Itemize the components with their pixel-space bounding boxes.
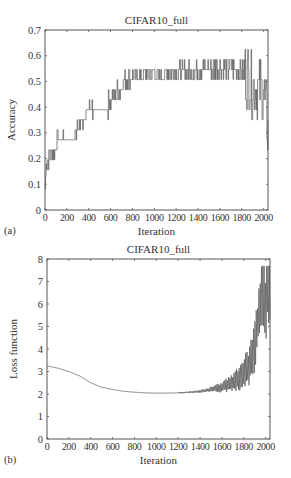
accuracy-line (45, 50, 268, 190)
panel-label: (b) (4, 454, 17, 466)
x-axis-label: Iteration (140, 454, 178, 466)
y-tick-label: 8 (38, 254, 43, 265)
y-tick-label: 0.3 (28, 127, 41, 138)
x-tick-label: 1800 (235, 441, 254, 452)
x-tick-label: 1600 (213, 441, 232, 452)
y-tick-label: 0.1 (28, 179, 41, 190)
x-tick-label: 0 (45, 441, 50, 452)
loss-line (47, 266, 270, 394)
accuracy-figure: CIFAR10_full0200400600800100012001400160… (0, 0, 291, 240)
x-tick-label: 1400 (191, 441, 210, 452)
y-tick-label: 6 (38, 299, 43, 310)
y-tick-label: 0.7 (28, 25, 41, 36)
y-tick-label: 3 (38, 366, 43, 377)
accuracy-chart: CIFAR10_full0200400600800100012001400160… (0, 0, 291, 240)
x-tick-label: 400 (84, 441, 98, 452)
y-tick-label: 4 (38, 344, 44, 355)
y-tick-label: 0.2 (28, 153, 41, 164)
x-tick-label: 1000 (145, 212, 164, 223)
loss-chart: CIFAR10_full0200400600800100012001400160… (0, 240, 291, 478)
y-tick-label: 0.6 (28, 50, 41, 61)
x-tick-label: 1000 (147, 441, 166, 452)
x-tick-label: 1400 (189, 212, 208, 223)
x-tick-label: 800 (128, 441, 142, 452)
x-tick-label: 2000 (256, 441, 275, 452)
y-tick-label: 0 (36, 205, 41, 216)
x-tick-label: 200 (60, 212, 74, 223)
x-tick-label: 800 (126, 212, 140, 223)
chart-title: CIFAR10_full (127, 243, 190, 255)
plot-frame (45, 30, 268, 210)
y-tick-label: 7 (38, 276, 43, 287)
y-tick-label: 1 (38, 411, 43, 422)
y-tick-label: 0 (38, 434, 43, 445)
x-tick-label: 1800 (233, 212, 252, 223)
y-tick-label: 0.5 (28, 76, 41, 87)
y-axis-label: Accuracy (5, 98, 17, 141)
chart-title: CIFAR10_full (125, 14, 188, 26)
x-tick-label: 600 (106, 441, 120, 452)
panel-label: (a) (4, 225, 16, 237)
x-tick-label: 600 (104, 212, 118, 223)
x-tick-label: 0 (43, 212, 48, 223)
x-tick-label: 1200 (169, 441, 188, 452)
x-tick-label: 1600 (211, 212, 230, 223)
plot-frame (47, 259, 270, 439)
x-tick-label: 2000 (254, 212, 273, 223)
y-tick-label: 0.4 (28, 102, 42, 113)
x-axis-label: Iteration (138, 225, 176, 237)
loss-figure: CIFAR10_full0200400600800100012001400160… (0, 240, 291, 478)
x-tick-label: 400 (82, 212, 96, 223)
x-tick-label: 200 (62, 441, 76, 452)
x-tick-label: 1200 (167, 212, 186, 223)
y-axis-label: Loss function (7, 318, 19, 379)
y-tick-label: 5 (38, 321, 43, 332)
y-tick-label: 2 (38, 389, 43, 400)
